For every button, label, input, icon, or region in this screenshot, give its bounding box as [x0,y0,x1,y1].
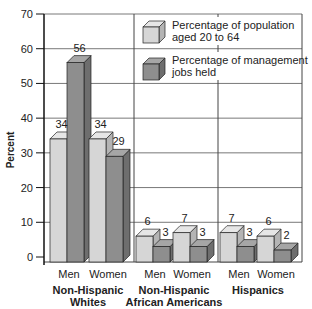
value-label: 3 [199,226,205,238]
value-label: 34 [94,118,106,130]
y-tick-label: 20 [21,182,33,194]
y-tick-label: 10 [21,216,33,228]
value-label: 6 [265,215,271,227]
value-label: 7 [228,212,234,224]
bar [67,56,91,262]
y-tick-label: 50 [21,77,33,89]
value-label: 56 [73,42,85,54]
value-label: 7 [181,212,187,224]
x-category-label: Women [257,268,295,280]
bar [106,149,130,262]
group-label: Non-Hispanic [139,284,210,296]
value-label: 29 [112,135,124,147]
x-category-label: Women [89,268,127,280]
value-label: 3 [162,226,168,238]
legend-label: aged 20 to 64 [172,31,239,43]
y-tick-label: 70 [21,8,33,20]
group-label: Non-Hispanic [53,284,124,296]
y-tick-label: 60 [21,43,33,55]
value-label: 3 [246,226,252,238]
value-label: 6 [144,215,150,227]
group-label: African Americans [126,296,223,308]
legend-label: jobs held [171,66,216,78]
value-label: 2 [283,229,289,241]
legend-label: Percentage of management [172,54,308,66]
group-label: Hispanics [232,284,284,296]
legend-swatch-icon [143,21,165,43]
grouped-bar-chart: 3456342963737362 010203040506070 Percent… [0,0,312,309]
y-axis-label: Percent [5,131,16,168]
y-tick-label: 30 [21,147,33,159]
y-tick-label: 0 [27,251,33,263]
legend-swatch-icon [143,58,165,80]
x-category-label: Men [144,268,165,280]
value-label: 34 [55,118,67,130]
x-axis-labels: MenWomenMenWomenMenWomenNon-HispanicWhit… [53,268,295,308]
x-category-label: Women [173,268,211,280]
x-category-label: Men [58,268,79,280]
y-axis: 010203040506070 [21,8,44,265]
bar [190,240,214,262]
x-category-label: Men [228,268,249,280]
y-tick-label: 40 [21,112,33,124]
group-label: Whites [70,296,106,308]
legend-label: Percentage of population [172,19,294,31]
